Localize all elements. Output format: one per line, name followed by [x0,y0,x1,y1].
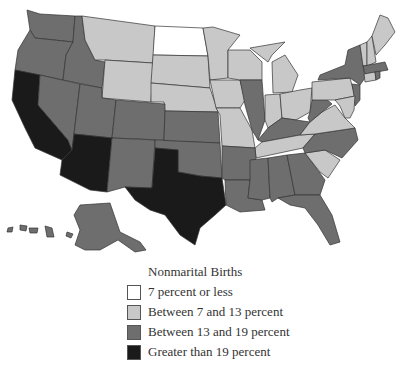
state-colorado [112,100,165,140]
legend-swatch-black [127,345,141,360]
legend-swatch-white [127,285,141,300]
state-pennsylvania [312,78,355,100]
state-maine [372,15,395,55]
state-ohio [280,88,312,120]
legend-swatch-light-gray [127,305,141,320]
state-connecticut [364,72,376,82]
state-florida [278,195,340,245]
legend-item-7-or-less: 7 percent or less [127,282,397,302]
legend-item-over-19: Greater than 19 percent [127,342,397,362]
legend-label: Between 13 and 19 percent [148,324,290,340]
state-iowa [210,80,245,108]
legend-swatch-dark-gray [127,325,141,340]
legend-label: Greater than 19 percent [148,344,270,360]
legend-label: Between 7 and 13 percent [148,304,283,320]
state-mississippi [248,158,270,200]
state-rhode-island [375,71,380,80]
legend-label: 7 percent or less [148,284,233,300]
legend-item-13-to-19: Between 13 and 19 percent [127,322,397,342]
legend-title: Nonmarital Births [148,262,397,282]
state-alaska [74,203,146,252]
state-hawaii [7,225,73,238]
us-choropleth-map [0,0,403,260]
state-north-dakota [153,26,208,56]
state-montana [82,16,155,63]
map-legend: Nonmarital Births 7 percent or less Betw… [127,262,397,362]
state-new-mexico [107,138,155,192]
state-wisconsin [228,50,262,80]
state-wyoming [102,60,153,102]
state-kansas [164,111,220,143]
legend-item-7-to-13: Between 7 and 13 percent [127,302,397,322]
state-south-dakota [151,55,210,88]
